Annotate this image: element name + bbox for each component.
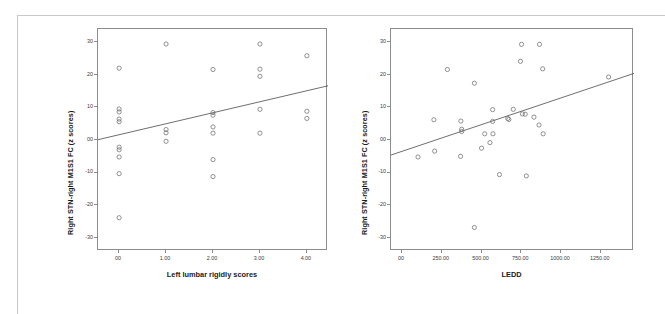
y-axis-tick-label: 10 (73, 103, 93, 109)
data-point-marker (506, 116, 510, 120)
data-point-marker (211, 157, 215, 161)
x-axis-tick-mark (441, 250, 442, 253)
data-point-marker (117, 110, 121, 114)
data-point-marker (117, 66, 121, 70)
scatter-svg-right (391, 29, 634, 251)
data-point-marker (472, 81, 476, 85)
x-axis-tick-mark (520, 250, 521, 253)
data-point-marker (211, 113, 215, 117)
figure-page: Right STN-right M1S1 FC (z scores) Left … (0, 0, 665, 314)
data-point-marker (211, 125, 215, 129)
y-axis-tick-label: -20 (366, 201, 386, 207)
y-axis-tick-label: 20 (366, 71, 386, 77)
scatter-svg-left (98, 29, 328, 251)
data-point-marker (519, 42, 523, 46)
data-point-marker (541, 67, 545, 71)
data-point-marker (488, 141, 492, 145)
y-axis-tick-mark (94, 74, 97, 75)
y-axis-tick-label: 00 (366, 136, 386, 142)
data-point-marker (416, 155, 420, 159)
y-axis-tick-mark (387, 204, 390, 205)
y-axis-tick-mark (94, 106, 97, 107)
regression-fit-line (391, 73, 634, 155)
data-point-marker (258, 131, 262, 135)
x-axis-tick-label: 500.00 (461, 255, 501, 261)
data-point-marker (433, 149, 437, 153)
data-point-marker (491, 108, 495, 112)
x-axis-tick-mark (306, 250, 307, 253)
data-point-marker (524, 174, 528, 178)
x-axis-tick-label: 1250.00 (580, 255, 620, 261)
y-axis-tick-label: -10 (73, 168, 93, 174)
plot-area-left (97, 28, 327, 250)
data-point-marker (483, 132, 487, 136)
y-axis-tick-label: -30 (73, 234, 93, 240)
data-point-marker (606, 75, 610, 79)
data-point-marker (511, 107, 515, 111)
y-axis-tick-mark (387, 106, 390, 107)
data-point-marker (117, 155, 121, 159)
data-point-marker (258, 74, 262, 78)
data-point-marker (523, 112, 527, 116)
data-point-marker (305, 109, 309, 113)
y-axis-tick-label: -20 (73, 201, 93, 207)
data-point-marker (164, 139, 168, 143)
y-axis-tick-mark (94, 41, 97, 42)
data-point-marker (258, 42, 262, 46)
x-axis-tick-label: 1000.00 (540, 255, 580, 261)
data-point-marker (445, 67, 449, 71)
x-axis-tick-label: 4.00 (286, 255, 326, 261)
data-point-marker (305, 116, 309, 120)
x-axis-tick-mark (212, 250, 213, 253)
x-axis-tick-mark (165, 250, 166, 253)
data-point-marker (164, 42, 168, 46)
data-point-marker (117, 120, 121, 124)
data-point-marker (507, 117, 511, 121)
x-axis-label-left: Left lumbar rigidly scores (97, 270, 327, 279)
y-axis-tick-mark (387, 41, 390, 42)
y-axis-tick-label: 00 (73, 136, 93, 142)
data-point-marker (537, 42, 541, 46)
y-axis-tick-mark (94, 204, 97, 205)
data-point-marker (458, 154, 462, 158)
y-axis-tick-label: -30 (366, 234, 386, 240)
data-point-marker (459, 119, 463, 123)
data-point-marker (541, 132, 545, 136)
data-point-marker (211, 131, 215, 135)
y-axis-tick-mark (387, 74, 390, 75)
x-axis-tick-mark (401, 250, 402, 253)
y-axis-tick-label: 20 (73, 71, 93, 77)
x-axis-tick-label: 3.00 (239, 255, 279, 261)
x-axis-tick-label: 00 (98, 255, 138, 261)
x-axis-tick-mark (560, 250, 561, 253)
data-point-marker (211, 174, 215, 178)
data-point-marker (258, 107, 262, 111)
scatter-plot-pair: Right STN-right M1S1 FC (z scores) Left … (0, 0, 665, 314)
data-point-marker (518, 59, 522, 63)
y-axis-tick-mark (94, 139, 97, 140)
plot-area-right (390, 28, 633, 250)
y-axis-tick-label: -10 (366, 168, 386, 174)
x-axis-tick-label: 2.00 (192, 255, 232, 261)
x-axis-tick-label: 250.00 (421, 255, 461, 261)
data-point-marker (432, 118, 436, 122)
data-point-marker (117, 216, 121, 220)
data-point-marker (305, 54, 309, 58)
x-axis-label-right: LEDD (390, 270, 633, 279)
data-point-marker (472, 225, 476, 229)
x-axis-tick-label: 750.00 (500, 255, 540, 261)
y-axis-tick-mark (94, 237, 97, 238)
y-axis-tick-mark (387, 139, 390, 140)
data-point-marker (491, 132, 495, 136)
x-axis-tick-mark (118, 250, 119, 253)
data-point-marker (117, 172, 121, 176)
y-axis-tick-mark (387, 172, 390, 173)
y-axis-tick-label: 30 (366, 38, 386, 44)
data-point-marker (258, 67, 262, 71)
y-axis-tick-label: 10 (366, 103, 386, 109)
data-point-marker (479, 146, 483, 150)
chart-panel-right: Right STN-right M1S1 FC (z scores) LEDD … (344, 20, 644, 290)
data-point-marker (497, 173, 501, 177)
data-point-marker (532, 115, 536, 119)
data-point-marker (211, 67, 215, 71)
